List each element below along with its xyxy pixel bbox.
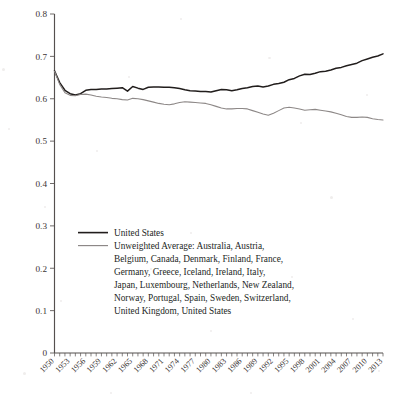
x-tick-label: 1998 (288, 357, 306, 375)
x-tick-label: 1959 (85, 357, 103, 375)
x-tick-label: 2001 (304, 357, 322, 375)
x-tick-label: 2004 (320, 357, 338, 375)
scan-artifact (378, 370, 380, 372)
x-tick-label: 1992 (257, 357, 275, 375)
legend-label-united-states: United States (114, 228, 164, 238)
x-tick-label: 1980 (194, 357, 212, 375)
x-tick-label: 1950 (38, 357, 56, 375)
legend-label-continuation: Belgium, Canada, Denmark, Finland, Franc… (114, 254, 283, 264)
y-tick-label: 0.3 (36, 221, 48, 231)
x-tick-label: 1983 (210, 357, 228, 375)
scan-artifact (96, 150, 98, 152)
y-tick-label: 0.8 (36, 9, 48, 19)
x-tick-label: 1971 (147, 357, 165, 375)
scan-artifact (190, 232, 192, 234)
scan-artifact (110, 392, 112, 394)
x-tick-label: 1977 (179, 357, 197, 375)
scan-artifact (268, 57, 271, 59)
x-tick-label: 1995 (273, 357, 291, 375)
scan-artifact (352, 318, 354, 320)
x-tick-label: 1974 (163, 357, 181, 375)
scan-artifact (128, 76, 130, 78)
legend-label-continuation: Germany, Greece, Iceland, Ireland, Italy… (114, 267, 265, 277)
scan-artifact (60, 300, 62, 302)
scan-artifact (150, 268, 152, 270)
x-tick-label: 1968 (132, 357, 150, 375)
x-tick-label: 2010 (351, 357, 369, 375)
x-tick-label: 1965 (116, 357, 134, 375)
scan-artifact (23, 372, 26, 375)
scan-artifact (330, 196, 333, 199)
y-tick-label: 0.7 (36, 52, 48, 62)
y-tick-label: 0.4 (36, 179, 48, 189)
y-tick-label: 0.2 (36, 264, 48, 274)
legend-label-continuation: Norway, Portugal, Spain, Sweden, Switzer… (114, 293, 291, 303)
series-line-unweighted-average (55, 71, 384, 120)
x-tick-label: 2013 (366, 357, 384, 375)
scan-artifact (300, 122, 302, 124)
x-tick-label: 1986 (226, 357, 244, 375)
chart-container: 00.10.20.30.40.50.60.70.8195019531956195… (0, 0, 395, 402)
legend-label-unweighted-average: Unweighted Average: Australia, Austria, (114, 241, 264, 251)
y-tick-label: 0 (42, 348, 47, 358)
scan-artifact (180, 18, 182, 20)
x-tick-label: 2007 (335, 357, 353, 375)
x-tick-label: 1953 (54, 357, 72, 375)
y-tick-label: 0.1 (36, 306, 48, 316)
scan-artifact (250, 392, 252, 394)
series-line-united-states (55, 54, 384, 95)
scan-artifact (210, 330, 212, 332)
scan-artifact (44, 206, 46, 208)
x-tick-label: 1989 (241, 357, 259, 375)
legend-label-continuation: Japan, Luxembourg, Netherlands, New Zeal… (114, 280, 294, 290)
scan-artifact (2, 68, 5, 71)
scan-artifact (8, 128, 10, 130)
y-tick-label: 0.6 (36, 94, 48, 104)
x-tick-label: 1956 (69, 357, 87, 375)
scan-artifact (291, 276, 293, 278)
x-tick-label: 1962 (101, 357, 119, 375)
legend-label-continuation: United Kingdom, United States (114, 306, 232, 316)
scan-artifact (366, 94, 368, 96)
y-tick-label: 0.5 (36, 136, 48, 146)
line-chart: 00.10.20.30.40.50.60.70.8195019531956195… (0, 0, 395, 402)
